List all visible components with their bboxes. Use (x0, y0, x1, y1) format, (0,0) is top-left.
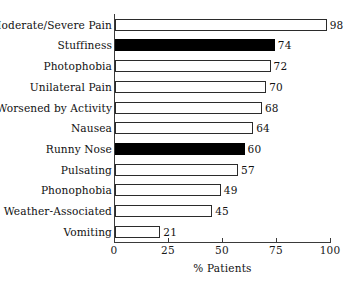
category-label: Pulsating (61, 164, 112, 175)
bar-row: Unilateral Pain70 (0, 76, 355, 97)
x-axis-tick (276, 238, 277, 242)
x-axis-title-text: % Patients (193, 262, 251, 274)
x-axis-tick-label: 0 (111, 244, 118, 256)
x-axis-line (114, 242, 331, 243)
bar-value-label: 49 (224, 185, 238, 196)
bar (115, 226, 160, 238)
bar (115, 184, 221, 196)
x-axis-tick (222, 238, 223, 242)
bar-row: Worsened by Activity68 (0, 97, 355, 118)
bar-row: Phonophobia49 (0, 180, 355, 201)
x-axis-tick-label: 50 (215, 244, 229, 256)
category-label: Runny Nose (46, 144, 112, 155)
bar-row: Photophobia72 (0, 55, 355, 76)
x-axis-tick-label: 100 (320, 244, 341, 256)
bar-row: Runny Nose60 (0, 138, 355, 159)
bar-row: Weather-Associated45 (0, 200, 355, 221)
bar (115, 19, 327, 31)
x-axis-tick (114, 238, 115, 242)
bar-row: Vomiting21 (0, 221, 355, 242)
bar (115, 122, 253, 134)
y-axis-line (114, 14, 115, 242)
bar-value-label: 45 (215, 206, 229, 217)
category-label: Worsened by Activity (0, 102, 112, 113)
category-label: Phonophobia (41, 185, 112, 196)
category-label: Moderate/Severe Pain (0, 19, 112, 30)
bar (115, 102, 262, 114)
bar (115, 143, 245, 155)
bar-row: Nausea64 (0, 118, 355, 139)
bar (115, 205, 212, 217)
category-label: Stuffiness (57, 40, 112, 51)
x-axis-tick-label: 25 (161, 244, 175, 256)
bar-value-label: 68 (265, 102, 279, 113)
bar-row: Moderate/Severe Pain98 (0, 14, 355, 35)
category-label: Photophobia (43, 61, 112, 72)
x-axis-tick (168, 238, 169, 242)
bar-value-label: 72 (274, 61, 288, 72)
horizontal-bar-chart: Moderate/Severe Pain98Stuffiness74Photop… (0, 0, 355, 286)
bar-row: Stuffiness74 (0, 35, 355, 56)
bar-value-label: 57 (241, 164, 255, 175)
bar-value-label: 98 (330, 19, 344, 30)
plot-area: Moderate/Severe Pain98Stuffiness74Photop… (0, 0, 355, 286)
bar-value-label: 74 (278, 40, 292, 51)
bar-value-label: 64 (256, 123, 270, 134)
x-axis-title: % Patients (0, 262, 355, 274)
category-label: Vomiting (63, 226, 112, 237)
bar-value-label: 21 (163, 226, 177, 237)
bar (115, 39, 275, 51)
x-axis-tick (330, 238, 331, 242)
bar-row: Pulsating57 (0, 159, 355, 180)
x-axis-tick-label: 75 (269, 244, 283, 256)
bar-value-label: 70 (269, 82, 283, 93)
bar (115, 164, 238, 176)
bar-value-label: 60 (248, 144, 262, 155)
category-label: Nausea (71, 123, 112, 134)
category-label: Unilateral Pain (30, 82, 112, 93)
bar (115, 60, 271, 72)
bar (115, 81, 266, 93)
category-label: Weather-Associated (4, 206, 112, 217)
